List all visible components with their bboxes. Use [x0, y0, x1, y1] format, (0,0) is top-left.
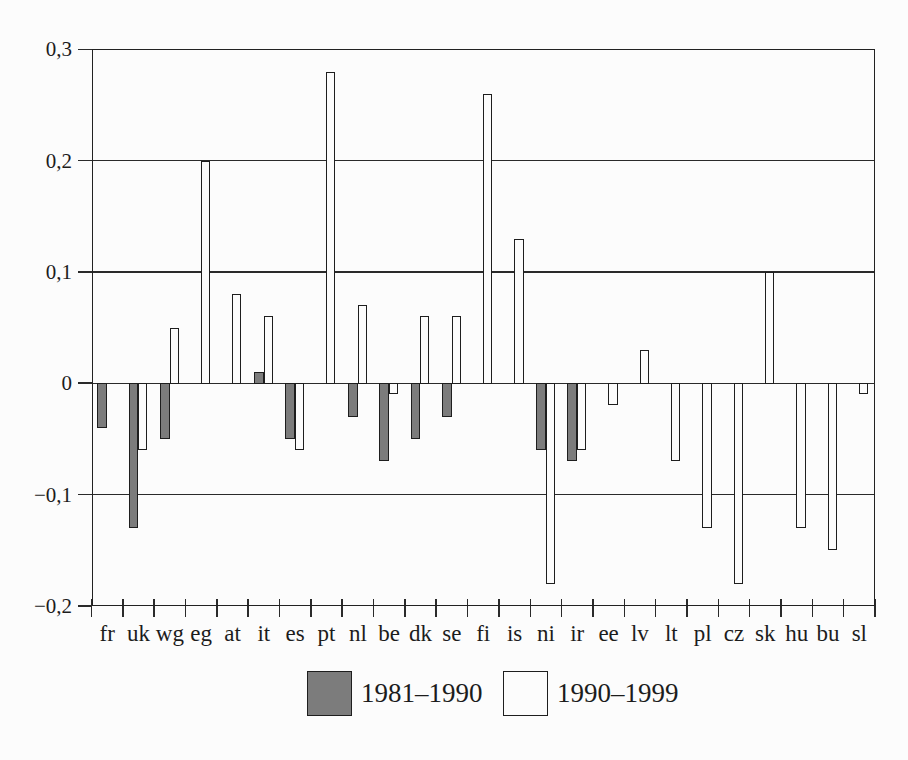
x-axis-label-pt: pt — [311, 620, 342, 648]
x-axis-label-cz: cz — [718, 620, 749, 648]
y-tick-0 — [78, 382, 92, 384]
x-axis-label-lt: lt — [656, 620, 687, 648]
legend-item-1981-1990: 1981–1990 — [307, 671, 483, 716]
y-tick-0.3 — [78, 49, 92, 51]
legend-label-1981-1990: 1981–1990 — [361, 678, 483, 709]
y-tick--0.1 — [78, 494, 92, 496]
x-axis-label-sk: sk — [750, 620, 781, 648]
plot-frame — [92, 49, 876, 606]
legend-swatch-1981-1990 — [307, 671, 352, 716]
x-axis-label-es: es — [280, 620, 311, 648]
x-axis-label-dk: dk — [405, 620, 436, 648]
x-axis-label-hu: hu — [781, 620, 812, 648]
x-axis-label-fi: fi — [468, 620, 499, 648]
x-axis-label-wg: wg — [154, 620, 185, 648]
x-axis-label-pl: pl — [687, 620, 718, 648]
x-axis-label-lv: lv — [624, 620, 655, 648]
chart-legend: 1981–1990 1990–1999 — [0, 671, 908, 717]
y-axis-label-0.3: 0,3 — [0, 36, 72, 62]
y-tick-0.1 — [78, 271, 92, 273]
legend-item-1990-1999: 1990–1999 — [503, 671, 679, 716]
x-axis-label-bu: bu — [812, 620, 843, 648]
y-axis-label-0.1: 0,1 — [0, 259, 72, 285]
x-axis-label-se: se — [436, 620, 467, 648]
y-axis-label--0.2: −0,2 — [0, 593, 72, 619]
x-axis-label-at: at — [217, 620, 248, 648]
legend-swatch-1990-1999 — [503, 671, 548, 716]
x-axis-label-it: it — [248, 620, 279, 648]
y-axis-label-0: 0 — [0, 370, 72, 396]
x-axis-label-ir: ir — [562, 620, 593, 648]
x-axis-label-nl: nl — [342, 620, 373, 648]
x-axis-label-be: be — [374, 620, 405, 648]
x-axis-label-is: is — [499, 620, 530, 648]
y-tick--0.2 — [78, 605, 92, 607]
x-axis-label-ni: ni — [530, 620, 561, 648]
x-axis-label-fr: fr — [92, 620, 123, 648]
y-tick-0.2 — [78, 160, 92, 162]
x-axis-label-eg: eg — [186, 620, 217, 648]
y-axis-label--0.1: −0,1 — [0, 482, 72, 508]
x-axis-label-ee: ee — [593, 620, 624, 648]
y-axis-label-0.2: 0,2 — [0, 148, 72, 174]
x-axis-label-uk: uk — [123, 620, 154, 648]
bar-chart-figure: 0,30,20,10−0,1−0,2frukwgegatitesptnlbedk… — [0, 0, 908, 760]
x-axis-label-sl: sl — [844, 620, 875, 648]
legend-label-1990-1999: 1990–1999 — [557, 678, 679, 709]
